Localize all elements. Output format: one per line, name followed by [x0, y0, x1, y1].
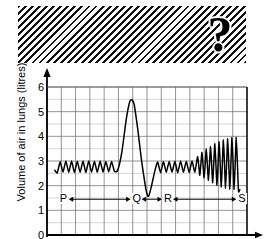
redacted-hatched-banner: ?	[18, 6, 246, 63]
plot-area	[0, 64, 264, 239]
phase-label-s: S	[237, 193, 246, 204]
question-mark-icon: ?	[200, 6, 240, 63]
phase-label-r: R	[163, 193, 173, 204]
phase-label-p: P	[59, 193, 68, 204]
phase-label-q: Q	[132, 193, 143, 204]
phase-span-arrows	[69, 197, 237, 202]
axes	[43, 68, 263, 238]
spirometer-chart: Volume of air in lungs (litres) 0123456 …	[0, 64, 264, 239]
